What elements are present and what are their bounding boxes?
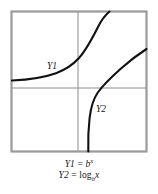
caption-line-y2: Y2 = logbx bbox=[0, 170, 158, 181]
figure-caption: Y1 = bx Y2 = logbx bbox=[0, 159, 158, 180]
figure-container: Y1 Y2 Y1 = bx Y2 = logbx bbox=[0, 0, 158, 194]
caption-y1-exponent: x bbox=[90, 157, 93, 164]
graph-canvas: Y1 Y2 bbox=[0, 0, 158, 158]
plot-area: Y1 Y2 bbox=[0, 0, 158, 158]
caption-y1-equals: = bbox=[75, 159, 85, 169]
caption-line-y1: Y1 = bx bbox=[0, 159, 158, 170]
caption-y2-lhs: Y2 bbox=[59, 170, 69, 180]
caption-y2-func: log bbox=[79, 170, 91, 180]
plot-frame bbox=[12, 12, 147, 152]
curve-label-y2: Y2 bbox=[96, 104, 106, 114]
caption-y1-lhs: Y1 bbox=[65, 159, 75, 169]
caption-y2-argument: x bbox=[95, 170, 99, 180]
curve-label-y1: Y1 bbox=[47, 61, 57, 71]
caption-y2-equals: = bbox=[69, 170, 79, 180]
